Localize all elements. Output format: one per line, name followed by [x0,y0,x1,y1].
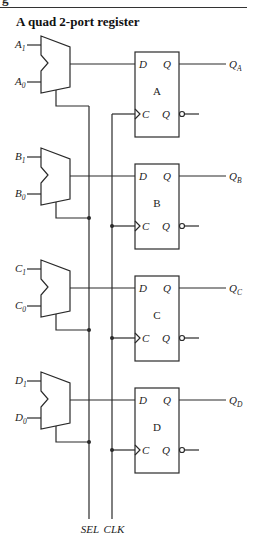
input-a0-label: A0 [14,75,26,90]
pin-c-label: C [142,332,150,344]
flip-flop-label: D [153,421,161,433]
mux-c [41,260,70,317]
flip-flop-c: DQCQC [135,276,179,361]
inversion-bubble [180,448,185,453]
pin-d-label: D [138,58,147,70]
flip-flop-label: A [153,85,161,97]
pin-qn-label: Q [162,220,170,232]
pin-qn-label: Q [162,332,170,344]
output-qd-label: QD [229,394,243,409]
pin-d-label: D [138,170,147,182]
pin-q-label: Q [163,282,171,294]
pin-c-label: C [142,108,150,120]
stage-a: A1A0DQCQAQA [14,36,242,137]
select-wire [56,202,89,218]
input-b1-label: B1 [15,150,25,165]
flip-flop-b: DQCQB [135,164,179,249]
inversion-bubble [180,336,185,341]
input-b0-label: B0 [15,187,26,202]
output-qc-label: QC [229,282,243,297]
pin-qn-label: Q [162,108,170,120]
input-d0-label: D0 [14,411,27,426]
pin-qn-label: Q [162,444,170,456]
pin-c-label: C [142,444,150,456]
pin-d-label: D [138,394,147,406]
pin-c-label: C [142,220,150,232]
pin-q-label: Q [163,394,171,406]
select-wire [56,90,89,106]
sel-junction-dot [87,440,91,444]
sel-label: SEL [81,523,99,535]
select-wire [56,314,89,330]
clk-junction-dot [110,224,114,228]
pin-d-label: D [138,282,147,294]
mux-a [41,36,70,93]
sel-junction-dot [87,216,91,220]
flip-flop-d: DQCQD [135,388,179,473]
stage-b: B1B0DQCQBQB [15,148,242,249]
circuit-diagram: A1A0DQCQAQA B1B0DQCQBQB C1C0DQCQCQC D1D0… [0,0,261,543]
input-c0-label: C0 [15,299,26,314]
pin-q-label: Q [163,170,171,182]
input-d1-label: D1 [14,374,27,389]
input-c1-label: C1 [15,262,26,277]
input-a1-label: A1 [14,38,25,53]
output-qb-label: QB [229,170,242,185]
clk-junction-dot [110,336,114,340]
flip-flop-label: B [153,197,160,209]
mux-b [41,148,70,205]
select-wire [56,426,89,442]
inversion-bubble [180,112,185,117]
stage-d: D1D0DQCQDQD [14,372,243,473]
flip-flop-label: C [153,309,160,321]
output-qa-label: QA [229,58,242,73]
flip-flop-a: DQCQA [135,52,179,137]
inversion-bubble [180,224,185,229]
sel-junction-dot [87,328,91,332]
clk-junction-dot [110,448,114,452]
pin-q-label: Q [163,58,171,70]
figure: g A quad 2-port register A1A0DQCQAQA B1B… [0,0,261,543]
clk-label: CLK [104,523,125,535]
mux-d [41,372,70,429]
stage-c: C1C0DQCQCQC [15,260,243,361]
